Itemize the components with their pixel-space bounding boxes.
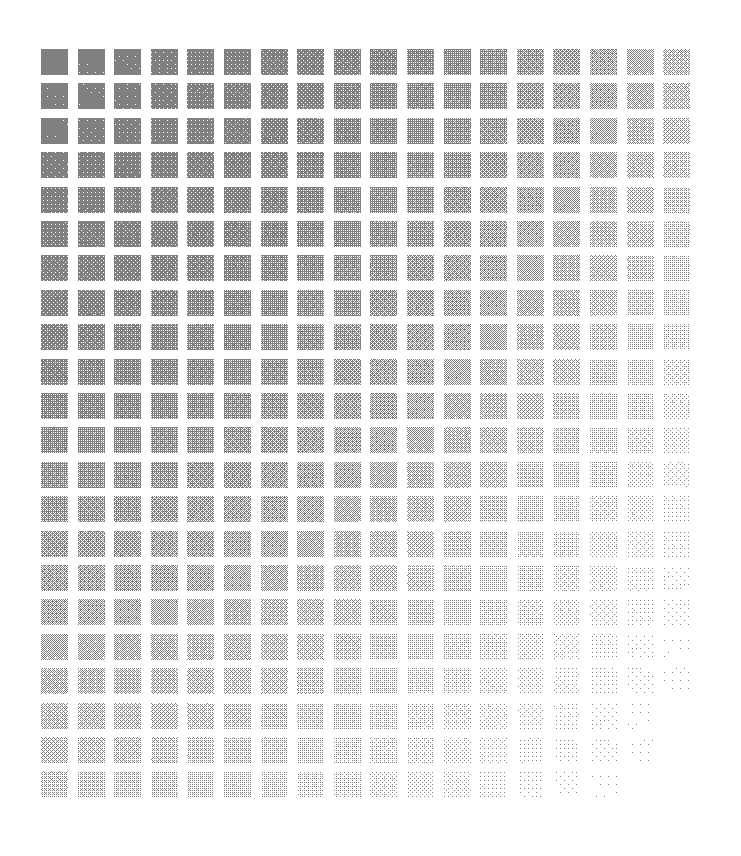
halftone-swatch-grid-canvas [0, 0, 741, 856]
halftone-gradient-page: { "page": { "title": "Halftone Gradient … [0, 0, 741, 856]
